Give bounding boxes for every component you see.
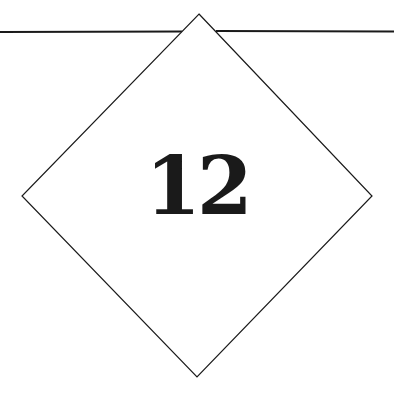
header-rule-right: [216, 31, 394, 32]
header-rule-left: [0, 32, 182, 33]
chapter-number: 12: [0, 146, 394, 226]
